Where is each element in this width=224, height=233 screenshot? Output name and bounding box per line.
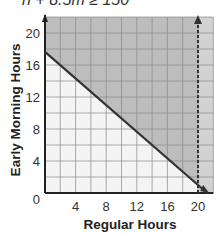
y-tick-label: 20 (26, 26, 40, 41)
x-tick-label: 8 (103, 199, 110, 214)
x-axis-label: Regular Hours (83, 217, 176, 232)
x-tick-label: 20 (191, 199, 205, 214)
shaded-region-right (198, 17, 213, 193)
x-tick-label: 12 (130, 199, 144, 214)
y-tick-label: 16 (26, 58, 40, 73)
y-tick-label: 0 (33, 192, 40, 207)
inequality-graph: 48121620201612840Regular HoursEarly Morn… (0, 0, 224, 233)
x-tick-label: 4 (72, 199, 79, 214)
y-tick-label: 8 (33, 122, 40, 137)
x-tick-label: 16 (160, 199, 174, 214)
y-axis-label: Early Morning Hours (8, 44, 23, 177)
y-tick-label: 12 (26, 90, 40, 105)
y-tick-label: 4 (33, 154, 40, 169)
